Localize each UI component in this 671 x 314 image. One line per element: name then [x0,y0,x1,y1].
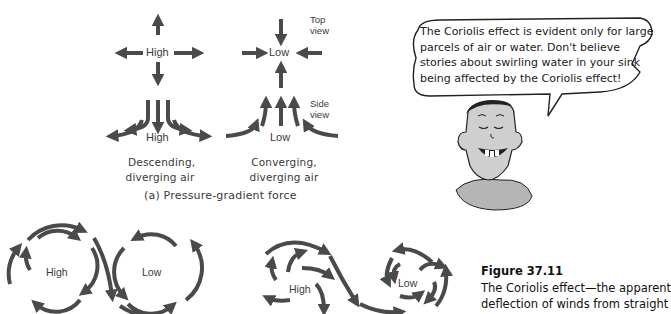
left-caption-line-2: diverging air [120,170,200,185]
figure-caption-line-1: The Coriolis effect—the apparent [481,280,671,296]
speech-line-4: being affected by the Coriolis effect! [420,71,653,87]
speech-bubble-text: The Coriolis effect is evident only for … [420,24,653,86]
side-view-caption-line-2: view [310,109,329,120]
figure-caption-line-2: deflection of winds from straight [481,296,671,312]
high-spiral-arrows-icon [266,242,356,310]
panel-a-title: (a) Pressure-gradient force [144,189,297,202]
speech-line-3: stories about swirling water in your sin… [420,55,653,71]
right-caption-line-1: Converging, [246,155,322,170]
panel-b-low-label: Low [142,266,161,278]
speech-line-1: The Coriolis effect is evident only for … [420,24,653,40]
right-caption-line-2: diverging air [246,170,322,185]
panel-b-high-label: High [46,266,68,278]
side-view-high-label: High [146,131,169,143]
side-view-caption: Side view [310,98,329,120]
left-caption-line-1: Descending, [128,155,192,170]
right-caption: Converging, diverging air [246,155,322,185]
figure-title: Figure 37.11 [481,264,563,278]
panel-c-high-label: High [289,283,311,295]
side-view-low-label: Low [270,131,290,143]
top-view-high-label: High [146,46,169,58]
figure-caption: The Coriolis effect—the apparent deflect… [481,280,671,312]
top-view-caption: Top view [310,14,329,36]
top-view-caption-line-2: view [310,25,329,36]
left-caption: Descending, diverging air [128,155,192,185]
top-view-caption-line-1: Top [310,14,329,25]
panel-c-low-label: Low [398,277,417,289]
speech-line-2: parcels of air or water. Don't believe [420,40,653,56]
top-view-low-label: Low [269,46,289,58]
cartoon-character-icon [456,100,532,210]
side-view-caption-line-1: Side [310,98,329,109]
